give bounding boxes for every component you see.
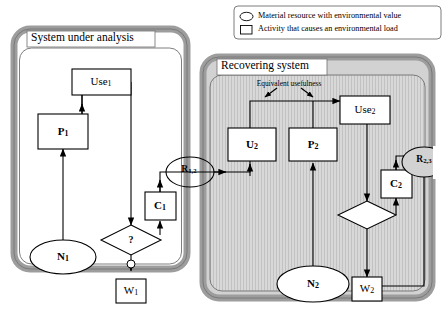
node-use-1-label: Use1 bbox=[90, 76, 111, 89]
node-r-2-3-subscript: 2,3 bbox=[423, 157, 432, 164]
node-n-1-label: N1 bbox=[57, 251, 69, 264]
annotation-equivalent-usefulness: Equivalent usefulness bbox=[257, 80, 322, 87]
node-p-2-subscript: 2 bbox=[314, 142, 318, 151]
panel-recovering-system-title: Recovering system bbox=[221, 60, 309, 72]
node-p-2-label: P2 bbox=[308, 139, 319, 152]
node-use-1-text: Use bbox=[90, 75, 107, 87]
node-c-2-subscript: 2 bbox=[398, 181, 402, 190]
node-p-1-text: P bbox=[58, 125, 65, 137]
node-r-2-3-label: R2,3 bbox=[416, 155, 431, 165]
legend-item-0-label: Material resource with environmental val… bbox=[258, 12, 401, 20]
junction-circle-1 bbox=[127, 260, 135, 268]
node-use-2-text: Use bbox=[354, 103, 371, 115]
legend-rectangle-icon bbox=[241, 26, 253, 35]
node-c-1-label: C1 bbox=[154, 200, 166, 213]
node-c-2-label: C2 bbox=[390, 178, 402, 191]
node-w-2-label: W2 bbox=[360, 283, 374, 296]
node-r-1-2-text: R bbox=[181, 164, 188, 174]
node-c-1-subscript: 1 bbox=[162, 203, 166, 212]
node-u-2-subscript: 2 bbox=[254, 142, 258, 151]
node-u-2-label: U2 bbox=[246, 139, 258, 152]
node-r-2-3-text: R bbox=[416, 154, 423, 164]
node-use-2-label: Use2 bbox=[354, 104, 375, 117]
node-n-2-subscript: 2 bbox=[315, 281, 319, 290]
node-p-1-label: P1 bbox=[58, 126, 69, 139]
panel-system-under-analysis-title: System under analysis bbox=[31, 32, 134, 44]
node-decision-1-label: ? bbox=[129, 235, 134, 245]
node-n-2-text: N bbox=[307, 277, 315, 289]
node-w-2-text: W bbox=[360, 282, 370, 294]
node-n-2-label: N2 bbox=[307, 278, 319, 291]
node-p-2-text: P bbox=[308, 138, 315, 150]
node-w-1-text: W bbox=[124, 284, 134, 296]
diagram-canvas: Material resource with environmental val… bbox=[0, 0, 448, 313]
node-n-1-subscript: 1 bbox=[65, 254, 69, 263]
node-c-2-text: C bbox=[390, 177, 398, 189]
node-w-2-subscript: 2 bbox=[370, 286, 374, 295]
node-w-1-subscript: 1 bbox=[134, 288, 138, 297]
node-use-2-subscript: 2 bbox=[372, 107, 376, 116]
node-r-1-2-label: R1,2 bbox=[181, 165, 196, 175]
node-c-1-text: C bbox=[154, 199, 162, 211]
node-p-1-subscript: 1 bbox=[64, 129, 68, 138]
node-u-2-text: U bbox=[246, 138, 254, 150]
node-r-1-2-subscript: 1,2 bbox=[188, 167, 197, 174]
node-n-1-text: N bbox=[57, 250, 65, 262]
node-use-1-subscript: 1 bbox=[108, 79, 112, 88]
diagram-graphics bbox=[0, 0, 448, 313]
legend-ellipse-icon bbox=[240, 12, 253, 20]
legend-item-1-label: Activity that causes an environmental lo… bbox=[258, 25, 398, 33]
node-w-1-label: W1 bbox=[124, 285, 138, 298]
